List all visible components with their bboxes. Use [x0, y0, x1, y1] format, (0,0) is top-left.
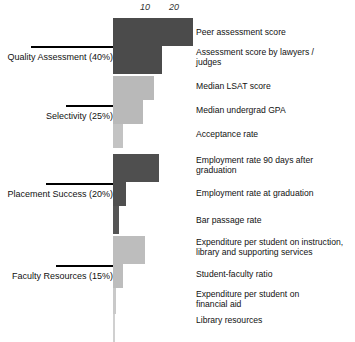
bar	[113, 236, 145, 264]
bar	[113, 124, 123, 148]
bar	[113, 154, 159, 182]
bar-label: Library resources	[196, 315, 352, 325]
bar	[113, 100, 143, 124]
bar	[113, 314, 115, 342]
bar	[113, 76, 154, 100]
bar	[113, 46, 162, 74]
bar	[113, 182, 126, 206]
group-label: Placement Success (20%)	[7, 189, 113, 199]
bar-label: Bar passage rate	[196, 215, 352, 225]
bar	[113, 264, 123, 288]
x-axis-tick-10: 10	[140, 2, 150, 12]
bar-label: Expenditure per student on instruction, …	[196, 237, 352, 258]
group-rule	[66, 105, 113, 107]
bar	[113, 288, 116, 314]
bar-label: Acceptance rate	[196, 129, 352, 139]
group-rule	[31, 46, 113, 48]
bar-label: Peer assessment score	[196, 27, 352, 37]
group-rule	[56, 265, 113, 267]
bar-label: Employment rate at graduation	[196, 188, 352, 198]
group-label: Selectivity (25%)	[46, 111, 113, 121]
bar-label: Median LSAT score	[196, 81, 352, 91]
group-label: Faculty Resources (15%)	[12, 271, 113, 281]
bar-label: Median undergrad GPA	[196, 105, 352, 115]
plot-area: Peer assessment scoreAssessment score by…	[0, 14, 355, 335]
bar	[113, 206, 119, 234]
bar-label: Assessment score by lawyers / judges	[196, 47, 352, 68]
bar-label: Student-faculty ratio	[196, 269, 352, 279]
group-label: Quality Assessment (40%)	[7, 52, 113, 62]
group-rule	[46, 183, 113, 185]
x-axis-tick-20: 20	[169, 2, 179, 12]
bar-label: Expenditure per student on financial aid	[196, 289, 352, 310]
bar-label: Employment rate 90 days after graduation	[196, 155, 352, 176]
bar	[113, 18, 193, 46]
